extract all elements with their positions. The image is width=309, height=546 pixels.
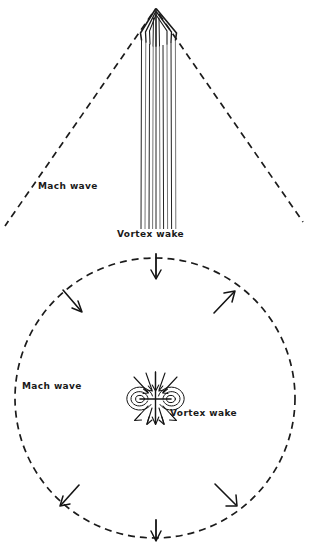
plan-vortex-wake-label: Vortex wake: [117, 229, 184, 239]
wake-trace-8: [167, 44, 168, 229]
plan-mach-wave: [5, 14, 303, 226]
arrow-upper-left: [63, 290, 82, 312]
cross-section-panel: Mach wave Vortex wake: [15, 254, 295, 541]
figure-canvas: Mach wave Vortex wake: [0, 0, 309, 546]
wake-trace-7: [163, 45, 164, 229]
apex-spine-left: [153, 18, 154, 46]
apex-spine-right: [159, 18, 160, 46]
mach-wave-right-leg: [159, 14, 303, 222]
circle-vortex-wake-label: Vortex wake: [170, 408, 237, 418]
plan-view-panel: Mach wave Vortex wake: [5, 9, 303, 239]
wake-trace-9: [171, 42, 172, 229]
wake-trace-6: [159, 46, 160, 229]
arrow-upper-right: [214, 291, 235, 313]
wake-trace-1: [141, 40, 142, 229]
wake-trace-3: [149, 44, 150, 229]
arrow-lower-left: [60, 485, 79, 506]
plan-apex-head: [141, 9, 177, 46]
mach-wave-left-leg: [5, 14, 152, 226]
wake-trace-2: [145, 42, 146, 229]
circle-mach-wave-label: Mach wave: [22, 381, 82, 391]
plan-vortex-wake: [141, 40, 176, 229]
vortex-upper-streamlines: [134, 372, 177, 394]
figure-root: Mach wave Vortex wake: [0, 0, 309, 546]
arrow-lower-right: [215, 484, 237, 506]
wake-trace-4: [153, 46, 154, 229]
plan-mach-wave-label: Mach wave: [38, 181, 98, 191]
